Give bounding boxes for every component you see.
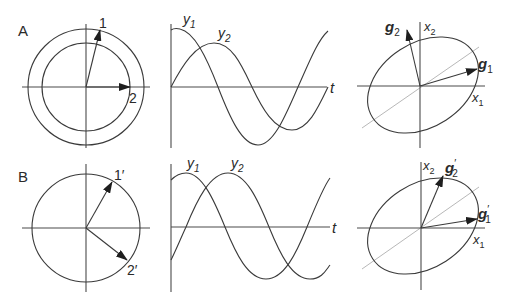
x1-label: x1 [472,232,485,250]
x2-label: x2 [423,19,436,37]
y2-label: y2 [230,155,244,174]
panel-label-a: A [18,22,28,39]
g1-prime-vector-arrow [421,219,477,228]
g2-label: g2 [384,18,400,38]
x1-label: x1 [471,90,484,108]
waveform-plot-a: y1 y2 t [171,11,335,148]
phasor-diagram-b: 1′ 2′ [22,164,150,292]
panel-label-b: B [18,168,28,185]
g1-vector-arrow [420,69,477,86]
curve-y2 [171,173,330,279]
vector-1-prime-label: 1′ [114,167,125,183]
y1-label: y1 [182,11,196,30]
x2-label: x2 [422,158,435,176]
g1-label: g1 [477,55,493,75]
t-label: t [332,219,337,236]
g2-prime-label: g′2 [444,157,458,179]
waveform-plot-b: y1 y2 t [171,155,337,292]
vector-1-arrow [86,30,100,87]
vector-2-prime-arrow [86,228,127,260]
vector-2-label: 2 [129,90,137,106]
ellipse-diagram-a: g2 x2 g1 x1 [350,17,496,153]
ellipse-diagram-b: x2 g′2 g′1 x1 [350,157,496,294]
phasor-diagram-a: 1 2 [22,15,150,148]
diagram-canvas: A 1 2 y1 y2 t g2 x2 g1 x1 B [0,0,508,301]
vector-1-prime-arrow [86,182,112,228]
vector-2-prime-label: 2′ [127,262,138,278]
y2-label: y2 [217,25,231,44]
y1-label: y1 [186,155,200,174]
t-label: t [330,79,335,96]
vector-1-label: 1 [99,15,107,31]
g2-vector-arrow [407,30,420,86]
g1-prime-label: g′1 [477,203,491,225]
